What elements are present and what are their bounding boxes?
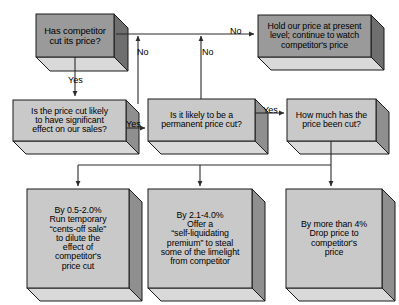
- node-shape-outcome-drop-price: [286, 189, 395, 301]
- node-shape-permanent-price-cut: [148, 99, 268, 154]
- edge-label-yes-4to5: Yes: [263, 106, 278, 115]
- node-shape-hold-our-price: [258, 15, 384, 70]
- edge-label-no-2: No: [137, 48, 149, 57]
- node-shape-has-competitor-cut-price: [36, 14, 128, 71]
- edge-label-yes-1to2: Yes: [68, 76, 83, 85]
- flowchart-connectors: [0, 0, 399, 305]
- node-shape-how-much-cut: [287, 99, 389, 154]
- edge-label-yes-2to4: Yes: [126, 120, 141, 129]
- node-shape-significant-effect-on-sales: [13, 100, 139, 154]
- node-shape-outcome-self-liquidating-premium: [148, 189, 265, 301]
- edge-label-no-4: No: [202, 48, 214, 57]
- flowchart-canvas: Has competitor cut its price?Is the pric…: [0, 0, 399, 305]
- edge-label-no-1to3: No: [230, 27, 242, 36]
- node-shape-outcome-cents-off-sale: [27, 189, 142, 301]
- flowchart-node-shapes: [13, 14, 395, 301]
